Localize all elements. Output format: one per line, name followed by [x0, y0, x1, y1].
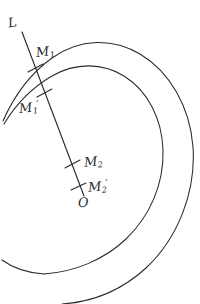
label-point-m2-prime-base: M	[87, 179, 102, 195]
label-point-m1-prime: M1′	[18, 98, 40, 117]
spiral-inner-arm	[4, 66, 163, 274]
label-point-m1: M1	[35, 42, 56, 61]
tick-mark-m1	[28, 64, 43, 72]
label-point-origin-base: O	[78, 195, 90, 211]
label-ray-L-base: L	[7, 14, 18, 30]
label-point-m1-base: M	[35, 44, 50, 61]
label-point-m2-subscript: 2	[97, 160, 103, 169]
label-point-m2: M2	[83, 152, 103, 171]
label-point-m1-prime-base: M	[18, 100, 33, 116]
label-point-m2-base: M	[83, 154, 98, 170]
tick-mark-m2-prime	[71, 183, 86, 190]
spiral-diagram-figure: L M1 M1′ M2 M2′ O	[0, 0, 200, 304]
spiral-outer-arm	[3, 42, 193, 304]
label-ray-L: L	[7, 13, 18, 30]
label-point-m1-subscript: 1	[49, 50, 55, 60]
label-point-origin: O	[77, 194, 89, 211]
label-point-m2-prime: M2′	[87, 177, 109, 196]
spiral-core-arm	[2, 260, 44, 274]
